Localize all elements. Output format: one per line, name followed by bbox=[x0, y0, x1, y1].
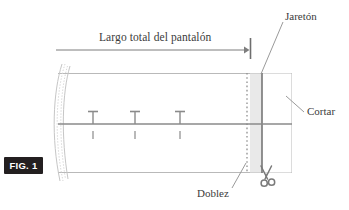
measurement-label: Largo total del pantalón bbox=[99, 32, 211, 44]
pin-marker bbox=[130, 111, 140, 139]
cut-off-panel bbox=[262, 74, 292, 173]
doblez-leader-line bbox=[232, 163, 246, 188]
fabric-curved-edge bbox=[54, 64, 70, 181]
fabric-edge-inner bbox=[63, 66, 70, 179]
figure-number-badge: FIG. 1 bbox=[4, 157, 43, 174]
pin-marker bbox=[175, 111, 185, 139]
hem-label: Jaretón bbox=[285, 11, 317, 22]
fold-label: Doblez bbox=[197, 188, 229, 199]
figure-container: Largo total del pantalón Jaretón Cortar … bbox=[0, 0, 349, 210]
pin-marker bbox=[88, 111, 98, 139]
figure-number-text: FIG. 1 bbox=[9, 161, 37, 171]
jareton-leader-line bbox=[261, 22, 283, 74]
hem-shaded-band bbox=[250, 74, 262, 173]
arrow-head-right-icon bbox=[244, 47, 250, 54]
cut-label: Cortar bbox=[307, 106, 335, 117]
